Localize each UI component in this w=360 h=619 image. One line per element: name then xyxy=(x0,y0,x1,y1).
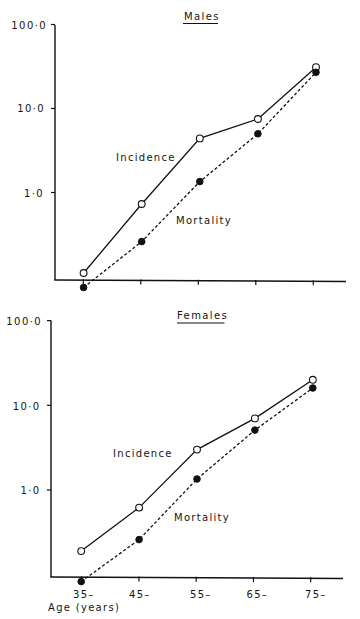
x-tick-label-75: 75– xyxy=(305,589,327,600)
x-tick-label-45: 45– xyxy=(129,589,151,600)
y-tick-label-10: 10·0 xyxy=(17,103,45,114)
y-tick-label-10: 10·0 xyxy=(13,401,41,412)
mortality-filled-circle-marker xyxy=(136,536,143,543)
mortality-filled-circle-marker xyxy=(313,69,320,76)
y-tick-label-1: 1·0 xyxy=(24,188,44,199)
x-axis-title: Age (years) xyxy=(48,602,120,613)
incidence-open-circle-marker xyxy=(80,270,87,277)
incidence-line xyxy=(84,67,316,273)
mortality-line xyxy=(81,388,313,582)
panel-title-females: Females xyxy=(177,310,228,321)
x-tick-label-65: 65– xyxy=(247,589,269,600)
females-chart-panel: Females 100·0 10·0 1·0 Incidence Mortali… xyxy=(6,310,343,613)
series-label-mortality: Mortality xyxy=(176,215,232,226)
panel-title-males: Males xyxy=(184,11,220,22)
y-tick-label-100: 100·0 xyxy=(6,316,42,327)
y-tick-label-100: 100·0 xyxy=(11,20,47,31)
mortality-filled-circle-marker xyxy=(197,178,204,185)
males-chart-panel: Males 100·0 10·0 1·0 Incidence Mortality xyxy=(11,11,346,291)
incidence-line xyxy=(81,380,313,551)
incidence-open-circle-marker xyxy=(138,201,145,208)
incidence-open-circle-marker xyxy=(78,548,85,555)
y-tick-label-1: 1·0 xyxy=(20,485,40,496)
series-label-incidence: Incidence xyxy=(116,152,176,163)
mortality-filled-circle-marker xyxy=(80,284,87,291)
x-tick-label-35: 35– xyxy=(73,589,95,600)
mortality-filled-circle-marker xyxy=(255,131,262,138)
incidence-open-circle-marker xyxy=(194,446,201,453)
mortality-filled-circle-marker xyxy=(194,476,201,483)
x-axis xyxy=(54,280,346,282)
series-label-mortality: Mortality xyxy=(174,512,230,523)
series-label-incidence: Incidence xyxy=(113,448,173,459)
mortality-filled-circle-marker xyxy=(252,427,259,434)
mortality-filled-circle-marker xyxy=(310,385,317,392)
incidence-open-circle-marker xyxy=(196,135,203,142)
incidence-open-circle-marker xyxy=(136,504,143,511)
males-plot-area xyxy=(51,25,346,291)
mortality-filled-circle-marker xyxy=(78,578,85,585)
females-plot-area xyxy=(47,321,343,585)
incidence-mortality-figure: Males 100·0 10·0 1·0 Incidence Mortality… xyxy=(0,0,360,619)
mortality-filled-circle-marker xyxy=(138,238,145,245)
incidence-open-circle-marker xyxy=(252,415,259,422)
incidence-open-circle-marker xyxy=(309,376,316,383)
incidence-open-circle-marker xyxy=(255,116,262,123)
x-tick-label-55: 55– xyxy=(190,589,212,600)
